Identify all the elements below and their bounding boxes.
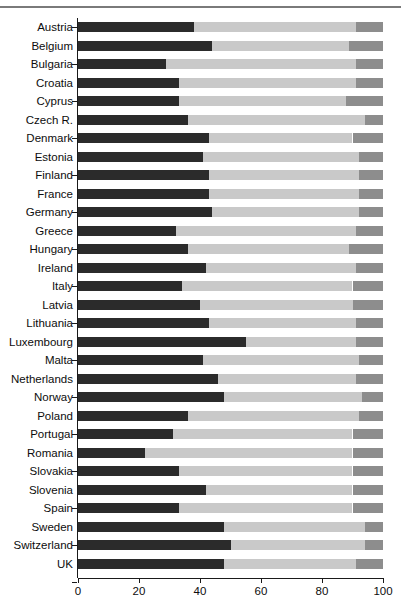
x-axis-tick xyxy=(322,578,323,583)
bar-row: Denmark xyxy=(0,129,401,148)
bar-track xyxy=(78,55,383,74)
bar-track xyxy=(78,296,383,315)
stacked-bar xyxy=(78,22,383,32)
x-axis-tick-label: 60 xyxy=(255,585,268,597)
bar-row: Croatia xyxy=(0,74,401,93)
bar-segment-medium xyxy=(349,244,383,254)
stacked-bar xyxy=(78,374,383,384)
category-label: Luxembourg xyxy=(0,333,73,352)
y-axis-line xyxy=(77,18,78,578)
category-label: Sweden xyxy=(0,518,73,537)
bar-segment-dark xyxy=(78,281,182,291)
bar-track xyxy=(78,92,383,111)
stacked-bar xyxy=(78,226,383,236)
bar-track xyxy=(78,222,383,241)
stacked-bar xyxy=(78,522,383,532)
category-label: Norway xyxy=(0,388,73,407)
bar-segment-medium xyxy=(359,207,383,217)
bar-row: Norway xyxy=(0,388,401,407)
category-label: Finland xyxy=(0,166,73,185)
bar-row: Bulgaria xyxy=(0,55,401,74)
bar-row: Lithuania xyxy=(0,314,401,333)
bar-row: UK xyxy=(0,555,401,574)
stacked-bar xyxy=(78,281,383,291)
bar-row: Ireland xyxy=(0,259,401,278)
bar-track xyxy=(78,74,383,93)
bar-segment-medium xyxy=(356,226,383,236)
bar-segment-light xyxy=(209,318,355,328)
bar-track xyxy=(78,314,383,333)
bar-row: Netherlands xyxy=(0,370,401,389)
category-label: Cyprus xyxy=(0,92,73,111)
bar-segment-light xyxy=(182,281,353,291)
x-axis-tick-label: 0 xyxy=(75,585,81,597)
stacked-bar xyxy=(78,448,383,458)
stacked-bar xyxy=(78,189,383,199)
bar-row: Cyprus xyxy=(0,92,401,111)
bar-segment-light xyxy=(188,411,359,421)
bar-segment-medium xyxy=(356,559,383,569)
bar-segment-medium xyxy=(353,300,384,310)
x-axis-line xyxy=(78,578,383,579)
bar-row: Czech R. xyxy=(0,111,401,130)
category-label: Romania xyxy=(0,444,73,463)
bar-segment-light xyxy=(203,355,359,365)
stacked-bar xyxy=(78,503,383,513)
x-axis-tick-label: 100 xyxy=(373,585,392,597)
bar-segment-light xyxy=(188,115,365,125)
category-label: Latvia xyxy=(0,296,73,315)
bar-segment-dark xyxy=(78,189,209,199)
bar-track xyxy=(78,425,383,444)
category-label: Italy xyxy=(0,277,73,296)
bar-segment-light xyxy=(194,22,356,32)
stacked-bar xyxy=(78,244,383,254)
x-axis-tick-label: 80 xyxy=(316,585,329,597)
category-label: Austria xyxy=(0,18,73,37)
bar-track xyxy=(78,351,383,370)
bar-segment-medium xyxy=(353,448,384,458)
bar-segment-medium xyxy=(349,41,383,51)
bar-segment-light xyxy=(209,170,358,180)
category-label: Germany xyxy=(0,203,73,222)
stacked-bar xyxy=(78,485,383,495)
bar-row: France xyxy=(0,185,401,204)
stacked-bar xyxy=(78,78,383,88)
category-label: Slovakia xyxy=(0,462,73,481)
bar-row: Malta xyxy=(0,351,401,370)
bar-track xyxy=(78,536,383,555)
category-label: Portugal xyxy=(0,425,73,444)
bar-segment-light xyxy=(206,263,355,273)
x-axis-tick xyxy=(383,578,384,583)
y-axis-tick xyxy=(72,582,77,583)
bar-track xyxy=(78,370,383,389)
bar-segment-light xyxy=(173,429,353,439)
bar-row: Sweden xyxy=(0,518,401,537)
bar-segment-light xyxy=(203,152,359,162)
category-label: Greece xyxy=(0,222,73,241)
bar-segment-medium xyxy=(359,411,383,421)
bar-row: Spain xyxy=(0,499,401,518)
bar-segment-light xyxy=(176,226,356,236)
x-axis-tick xyxy=(139,578,140,583)
bar-segment-medium xyxy=(356,78,383,88)
stacked-bar xyxy=(78,355,383,365)
bar-segment-medium xyxy=(356,374,383,384)
bar-track xyxy=(78,277,383,296)
stacked-bar xyxy=(78,41,383,51)
bar-track xyxy=(78,203,383,222)
bar-segment-light xyxy=(231,540,365,550)
bar-segment-dark xyxy=(78,22,194,32)
bar-segment-medium xyxy=(359,152,383,162)
bar-segment-light xyxy=(206,485,352,495)
bar-segment-medium xyxy=(353,485,384,495)
bar-track xyxy=(78,37,383,56)
stacked-bar xyxy=(78,337,383,347)
category-label: Netherlands xyxy=(0,370,73,389)
category-label: Denmark xyxy=(0,129,73,148)
x-axis-tick xyxy=(78,578,79,583)
bar-segment-dark xyxy=(78,337,246,347)
x-axis-tick-label: 20 xyxy=(133,585,146,597)
bar-rows: AustriaBelgiumBulgariaCroatiaCyprusCzech… xyxy=(0,18,401,573)
bar-segment-dark xyxy=(78,392,224,402)
bar-segment-medium xyxy=(359,189,383,199)
